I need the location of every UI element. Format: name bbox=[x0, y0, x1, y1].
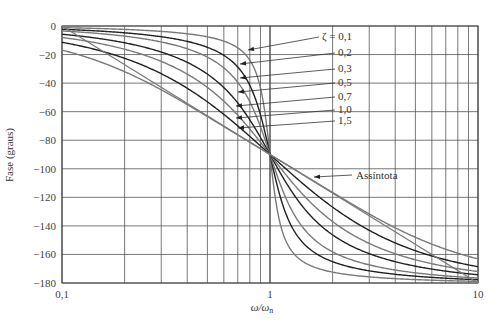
y-tick: −160 bbox=[33, 248, 56, 260]
y-tick: −180 bbox=[33, 277, 56, 289]
curve-label: 1,5 bbox=[338, 114, 352, 126]
x-tick-1: 1 bbox=[267, 288, 273, 300]
curve-label: 0,3 bbox=[338, 62, 352, 74]
y-tick: −80 bbox=[39, 134, 57, 146]
y-tick: −20 bbox=[39, 49, 57, 61]
y-tick: −40 bbox=[39, 77, 57, 89]
y-tick: −100 bbox=[33, 163, 56, 175]
y-tick: −140 bbox=[33, 220, 56, 232]
x-tick-10: 10 bbox=[473, 288, 485, 300]
y-tick: −60 bbox=[39, 106, 57, 118]
y-axis-title: Fase (graus) bbox=[3, 128, 16, 182]
y-tick: −120 bbox=[33, 191, 56, 203]
curve-label: 0,2 bbox=[338, 46, 352, 58]
curve-label: 0,5 bbox=[338, 76, 352, 88]
asymptote-label: Assíntota bbox=[356, 169, 398, 181]
y-tick: 0 bbox=[51, 20, 57, 32]
x-axis-title: ω/ωn bbox=[251, 301, 274, 315]
y-axis-ticks: 0−20−40−60−80−100−120−140−160−180 bbox=[33, 20, 56, 289]
curve-label: 0,7 bbox=[338, 90, 352, 102]
x-tick-0.1: 0,1 bbox=[55, 288, 69, 300]
curve-label: ζ = 0,1 bbox=[322, 30, 352, 43]
curve-labels: ζ = 0,10,20,30,50,71,01,5 bbox=[236, 30, 352, 179]
phase-bode-chart: 0−20−40−60−80−100−120−140−160−180 ζ = 0,… bbox=[0, 0, 504, 328]
